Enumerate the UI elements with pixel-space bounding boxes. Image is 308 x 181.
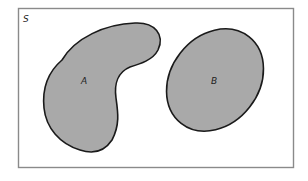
venn-diagram-svg [0, 0, 308, 181]
set-b-label: B [211, 77, 217, 86]
venn-diagram: S A B [0, 0, 308, 181]
set-a-label: A [81, 77, 87, 86]
sample-space-label: S [23, 15, 29, 24]
